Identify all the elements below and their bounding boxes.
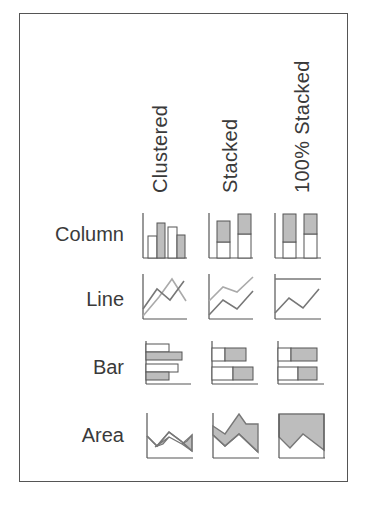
column-100-stacked-icon [273,212,323,262]
bar-100-stacked-icon [276,340,326,390]
area-clustered-icon [145,412,195,462]
row-label-line: Line [86,288,124,311]
column-header-stacked-text: Stacked [219,119,242,193]
line-100-stacked-icon [273,273,323,323]
column-clustered-icon [141,212,191,262]
row-label-area: Area [82,424,124,447]
bar-stacked-icon [210,340,260,390]
bar-clustered-icon [143,340,193,390]
line-stacked-icon [207,273,257,323]
area-100-stacked-icon [277,412,327,462]
column-header-clustered-text: Clustered [149,105,172,193]
area-stacked-icon [211,412,261,462]
column-stacked-icon [207,212,257,262]
row-label-column: Column [55,223,124,246]
line-clustered-icon [141,273,191,323]
row-label-bar: Bar [93,356,124,379]
column-header-100-stacked-text: 100% Stacked [291,60,314,193]
